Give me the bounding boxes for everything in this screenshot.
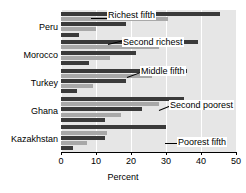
x-tick-label-0: 0	[51, 156, 71, 167]
category-label-peru: Peru	[39, 22, 58, 32]
callout-poorest-fifth: Poorest fifth	[177, 137, 227, 147]
bar-kazakhstan-poorest-fifth	[61, 146, 73, 150]
bar-turkey-second-richest	[61, 74, 152, 78]
bar-ghana-middle-fifth	[61, 107, 142, 111]
x-tick-label-40: 40	[191, 156, 211, 167]
bar-ghana-second-poorest	[61, 113, 121, 117]
x-tick-mark-30	[166, 152, 167, 155]
category-label-morocco: Morocco	[23, 50, 58, 60]
bar-morocco-poorest-fifth	[61, 61, 89, 65]
x-tick-mark-40	[201, 152, 202, 155]
bar-peru-poorest-fifth	[61, 33, 79, 37]
plot-area	[61, 10, 236, 152]
x-axis-line	[61, 152, 236, 153]
x-tick-mark-10	[96, 152, 97, 155]
category-label-kazakhstan: Kazakhstan	[11, 134, 58, 144]
bar-kazakhstan-richest-fifth	[61, 125, 166, 129]
bar-peru-middle-fifth	[61, 22, 126, 26]
bar-kazakhstan-second-richest	[61, 131, 107, 135]
bar-kazakhstan-second-poorest	[61, 141, 87, 145]
bar-ghana-poorest-fifth	[61, 118, 105, 122]
x-tick-label-20: 20	[121, 156, 141, 167]
x-axis-title: Percent	[0, 172, 246, 182]
category-label-ghana: Ghana	[31, 106, 58, 116]
bar-ghana-richest-fifth	[61, 97, 184, 101]
x-tick-label-30: 30	[156, 156, 176, 167]
x-tick-mark-0	[61, 152, 62, 155]
x-tick-mark-50	[236, 152, 237, 155]
bar-turkey-middle-fifth	[61, 79, 126, 83]
callout-second-poorest: Second poorest	[169, 100, 234, 110]
leader-line-richest	[91, 18, 108, 19]
bar-ghana-second-richest	[61, 102, 159, 106]
category-label-turkey: Turkey	[31, 78, 58, 88]
x-tick-label-50: 50	[226, 156, 246, 167]
bar-turkey-poorest-fifth	[61, 89, 77, 93]
bar-morocco-middle-fifth	[61, 51, 136, 55]
bar-turkey-second-poorest	[61, 84, 93, 88]
bar-peru-second-poorest	[61, 27, 96, 31]
callout-richest-fifth: Richest fifth	[107, 10, 156, 20]
bar-morocco-second-poorest	[61, 56, 110, 60]
bar-chart: Peru Morocco Turkey Ghana Kazakhstan 010…	[0, 0, 246, 193]
x-tick-label-10: 10	[86, 156, 106, 167]
bar-kazakhstan-middle-fifth	[61, 136, 105, 140]
gridline-50	[236, 10, 237, 152]
callout-second-richest: Second richest	[122, 37, 184, 47]
x-tick-mark-20	[131, 152, 132, 155]
callout-middle-fifth: Middle fifth	[140, 66, 186, 76]
